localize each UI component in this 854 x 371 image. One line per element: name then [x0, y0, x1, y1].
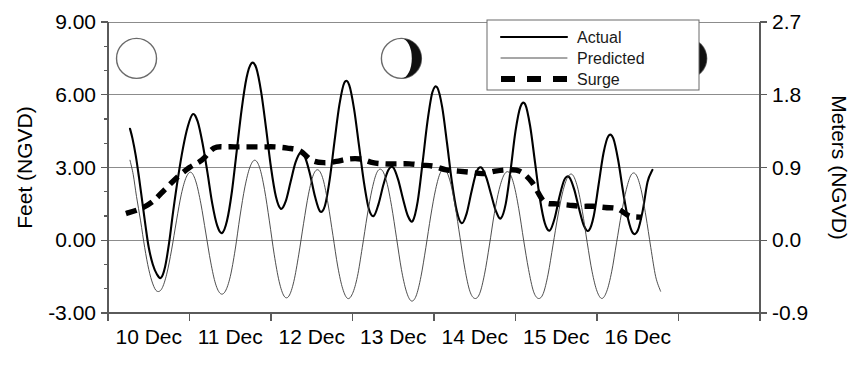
y2-tick-label: 0.9	[772, 156, 801, 179]
y-tick-label: 9.00	[55, 10, 96, 33]
x-tick-label: 13 Dec	[360, 325, 427, 348]
chart-page: 9.006.003.000.00-3.00 2.71.80.90.0-0.9 1…	[0, 0, 854, 371]
y-tick-label: -3.00	[48, 301, 96, 324]
x-tick-label: 10 Dec	[115, 325, 182, 348]
y2-tick-label: 2.7	[772, 10, 801, 33]
legend-swatch-dash	[553, 76, 567, 82]
legend-label-predicted: Predicted	[577, 50, 645, 67]
y-tick-label: 3.00	[55, 156, 96, 179]
x-tick-label: 16 Dec	[604, 325, 671, 348]
x-tick-label: 15 Dec	[523, 325, 590, 348]
y-axis-title: Feet (NGVD)	[13, 106, 36, 229]
y2-tick-label: 0.0	[772, 228, 801, 251]
y2-tick-label: -0.9	[772, 301, 808, 324]
x-tick-label: 14 Dec	[441, 325, 508, 348]
new-moon	[117, 38, 157, 78]
y-tick-label: 0.00	[55, 228, 96, 251]
new-moon-disc	[117, 38, 157, 78]
x-tick-label: 11 Dec	[198, 325, 263, 348]
y2-tick-label: 1.8	[772, 83, 801, 106]
legend-swatch-dash	[527, 76, 541, 82]
legend-label-actual: Actual	[577, 29, 621, 46]
legend: ActualPredictedSurge	[487, 20, 699, 90]
legend-swatch-dash	[501, 76, 515, 82]
y2-axis-title: Meters (NGVD)	[828, 95, 851, 240]
x-axis-tick-labels: 10 Dec11 Dec12 Dec13 Dec14 Dec15 Dec16 D…	[115, 325, 671, 348]
legend-label-surge: Surge	[577, 71, 620, 88]
waxing-gibbous-moon	[381, 38, 421, 78]
tide-chart: 9.006.003.000.00-3.00 2.71.80.90.0-0.9 1…	[0, 0, 854, 371]
y-tick-label: 6.00	[55, 83, 96, 106]
x-tick-label: 12 Dec	[278, 325, 345, 348]
